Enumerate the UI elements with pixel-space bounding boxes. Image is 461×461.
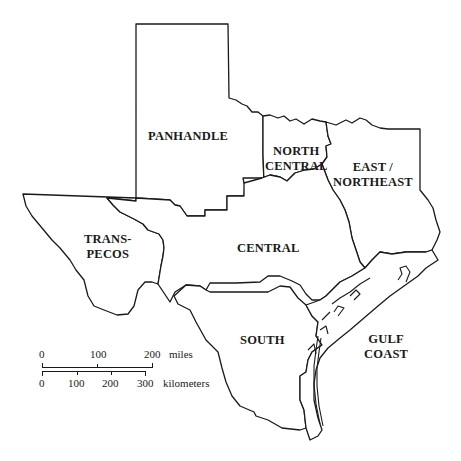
scale-miles-200: 200 xyxy=(144,348,161,360)
label-line: NORTHEAST xyxy=(333,175,413,190)
scale-miles-unit: miles xyxy=(169,348,193,360)
label-panhandle: PANHANDLE xyxy=(148,129,228,144)
scale-km-200: 200 xyxy=(102,377,119,389)
label-line: GULF xyxy=(364,332,408,347)
label-trans-pecos: TRANS- PECOS xyxy=(84,232,132,262)
scale-tick xyxy=(77,371,78,375)
scale-km-unit: kilometers xyxy=(163,377,209,389)
label-line: PANHANDLE xyxy=(148,129,228,144)
scale-km-bar xyxy=(42,371,146,372)
label-line: SOUTH xyxy=(240,333,285,348)
scale-km-300: 300 xyxy=(137,377,154,389)
label-line: CENTRAL xyxy=(237,241,300,256)
scale-miles-0: 0 xyxy=(39,348,45,360)
label-line: EAST / xyxy=(333,160,413,175)
label-north-central: NORTH CENTRAL xyxy=(265,144,328,174)
texas-regions-map xyxy=(0,0,461,461)
label-east-northeast: EAST / NORTHEAST xyxy=(333,160,413,190)
scale-tick xyxy=(42,363,43,368)
scale-tick xyxy=(145,371,146,376)
scale-tick xyxy=(111,371,112,375)
scale-tick xyxy=(97,364,98,368)
label-central: CENTRAL xyxy=(237,241,300,256)
scale-km-0: 0 xyxy=(39,377,45,389)
region-south xyxy=(174,285,322,430)
label-south: SOUTH xyxy=(240,333,285,348)
scale-miles-100: 100 xyxy=(90,348,107,360)
label-line: TRANS- xyxy=(84,232,132,247)
label-line: NORTH xyxy=(265,144,328,159)
label-line: PECOS xyxy=(84,247,132,262)
scale-km-100: 100 xyxy=(68,377,85,389)
scale-tick xyxy=(152,363,153,368)
label-gulf-coast: GULF COAST xyxy=(364,332,408,362)
label-line: CENTRAL xyxy=(265,159,328,174)
label-line: COAST xyxy=(364,347,408,362)
scale-tick xyxy=(42,371,43,376)
